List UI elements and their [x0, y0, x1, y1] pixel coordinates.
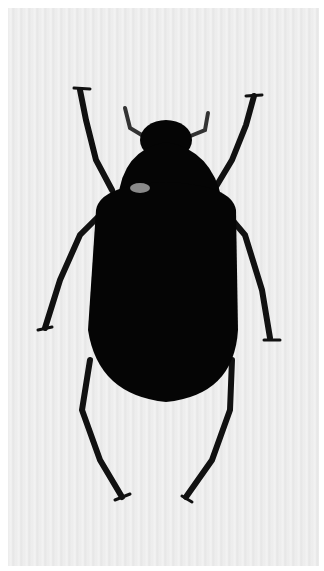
scutellum-highlight — [130, 183, 150, 193]
beetle-illustration — [0, 0, 324, 571]
image-frame — [0, 0, 324, 571]
beetle-body — [88, 120, 238, 402]
